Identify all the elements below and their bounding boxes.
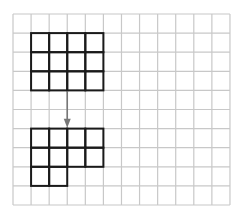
shape-cell [31, 71, 49, 90]
shape-cell [31, 33, 49, 52]
shape-cell [67, 71, 85, 90]
translated-shape [31, 129, 103, 186]
shape-cell [31, 148, 49, 167]
shape-cell [85, 129, 103, 148]
arrow-head [64, 119, 71, 128]
shape-cell [49, 33, 67, 52]
shape-cell [67, 33, 85, 52]
shape-cell [85, 33, 103, 52]
shape-cell [67, 148, 85, 167]
shape-cell [85, 52, 103, 71]
original-shape [31, 33, 103, 90]
shape-cell [31, 129, 49, 148]
shape-cell [85, 71, 103, 90]
shape-cell [49, 129, 67, 148]
grid-lines [13, 14, 230, 205]
shape-cell [49, 52, 67, 71]
shape-cell [67, 129, 85, 148]
shape-cell [49, 148, 67, 167]
shape-cell [31, 167, 49, 186]
grid-diagram [0, 0, 244, 219]
shape-cell [67, 52, 85, 71]
shape-cell [85, 148, 103, 167]
shape-cell [49, 167, 67, 186]
shape-cell [49, 71, 67, 90]
shape-cell [31, 52, 49, 71]
